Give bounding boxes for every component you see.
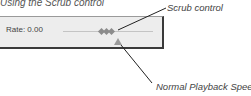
figure-caption: Using the Scrub control [0, 0, 104, 8]
normal-playback-speed-callout: Normal Playback Speed [156, 81, 251, 92]
rate-label: Rate: 0.00 [6, 25, 43, 34]
scrub-control[interactable] [98, 27, 118, 36]
scrub-control-callout: Scrub control [167, 2, 223, 13]
figure: Using the Scrub control Rate: 0.00 Scrub… [0, 0, 251, 96]
normal-speed-triangle-icon [114, 38, 122, 45]
rate-panel: Rate: 0.00 [0, 16, 164, 49]
diamond-handle-icon [108, 28, 115, 35]
